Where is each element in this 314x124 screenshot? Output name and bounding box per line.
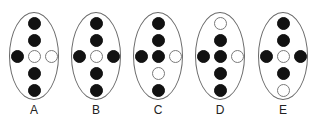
- option-label: E: [253, 103, 313, 117]
- column-row-5-empty-circle-icon: [277, 84, 290, 97]
- column-row-1-empty-circle-icon: [214, 17, 227, 30]
- column-row-5-filled-circle-icon: [28, 84, 41, 97]
- column-row-2-filled-circle-icon: [90, 34, 103, 47]
- middle-left-filled-circle-icon: [197, 50, 210, 63]
- middle-right-empty-circle-icon: [45, 50, 58, 63]
- column-row-4-filled-circle-icon: [277, 67, 290, 80]
- column-row-5-filled-circle-icon: [214, 84, 227, 97]
- column-row-5-filled-circle-icon: [90, 84, 103, 97]
- column-row-3-empty-circle-icon: [28, 50, 41, 63]
- option-a[interactable]: A: [4, 0, 66, 124]
- middle-left-filled-circle-icon: [73, 50, 86, 63]
- column-row-1-filled-circle-icon: [90, 17, 103, 30]
- middle-left-filled-circle-icon: [260, 50, 273, 63]
- column-row-1-filled-circle-icon: [152, 17, 165, 30]
- option-e[interactable]: E: [253, 0, 314, 124]
- column-row-1-filled-circle-icon: [277, 17, 290, 30]
- column-row-3-filled-circle-icon: [214, 50, 227, 63]
- middle-left-filled-circle-icon: [135, 50, 148, 63]
- column-row-1-filled-circle-icon: [28, 17, 41, 30]
- column-row-4-empty-circle-icon: [152, 67, 165, 80]
- option-label: B: [66, 103, 126, 117]
- middle-right-empty-circle-icon: [231, 50, 244, 63]
- middle-right-empty-circle-icon: [169, 50, 182, 63]
- option-label: D: [190, 103, 250, 117]
- middle-left-filled-circle-icon: [11, 50, 24, 63]
- column-row-2-filled-circle-icon: [214, 34, 227, 47]
- option-d[interactable]: D: [190, 0, 252, 124]
- column-row-5-filled-circle-icon: [152, 84, 165, 97]
- column-row-3-filled-circle-icon: [152, 50, 165, 63]
- middle-right-filled-circle-icon: [294, 50, 307, 63]
- column-row-4-filled-circle-icon: [214, 67, 227, 80]
- option-b[interactable]: B: [66, 0, 128, 124]
- column-row-2-filled-circle-icon: [152, 34, 165, 47]
- option-c[interactable]: C: [128, 0, 190, 124]
- column-row-3-empty-circle-icon: [277, 50, 290, 63]
- option-label: A: [4, 103, 64, 117]
- column-row-3-empty-circle-icon: [90, 50, 103, 63]
- column-row-2-filled-circle-icon: [277, 34, 290, 47]
- middle-right-filled-circle-icon: [107, 50, 120, 63]
- column-row-4-filled-circle-icon: [90, 67, 103, 80]
- column-row-2-filled-circle-icon: [28, 34, 41, 47]
- column-row-4-filled-circle-icon: [28, 67, 41, 80]
- option-label: C: [128, 103, 188, 117]
